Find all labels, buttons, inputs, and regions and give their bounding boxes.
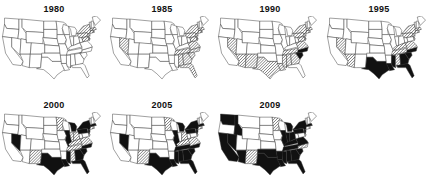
state-wa <box>5 114 19 125</box>
state-co <box>138 43 152 54</box>
state-ms <box>174 151 178 163</box>
state-ms <box>66 55 70 67</box>
state-ri <box>309 30 310 32</box>
state-wy <box>242 31 260 43</box>
state-fl <box>397 63 415 77</box>
state-nm <box>137 150 149 163</box>
state-mt <box>130 115 152 128</box>
state-fl <box>180 159 198 173</box>
us-map <box>0 112 104 176</box>
state-co <box>355 43 369 54</box>
state-mt <box>238 115 260 128</box>
state-mt <box>130 19 152 32</box>
us-map <box>0 16 104 80</box>
state-ct <box>198 126 201 129</box>
state-nd <box>44 21 57 29</box>
panel-year-title: 1980 <box>0 4 108 14</box>
panel-year-title: 1990 <box>216 4 324 14</box>
state-ne <box>259 38 276 46</box>
state-mi <box>69 26 77 35</box>
map-panel-1995: 1995 <box>325 4 433 84</box>
state-wa <box>221 18 235 29</box>
state-ms <box>174 55 178 67</box>
state-ri <box>93 30 94 32</box>
state-mt <box>22 19 44 32</box>
state-mt <box>238 19 260 32</box>
state-wi <box>62 24 69 34</box>
state-md <box>298 133 305 138</box>
state-mi <box>177 26 185 35</box>
state-ct <box>90 126 93 129</box>
state-nd <box>369 21 382 29</box>
state-sd <box>152 125 165 134</box>
us-map <box>325 16 429 80</box>
panel-year-title: 2009 <box>216 100 324 110</box>
state-sd <box>260 125 273 134</box>
state-mi <box>69 122 77 131</box>
state-wa <box>330 18 344 29</box>
map-panel-1990: 1990 <box>216 4 324 84</box>
state-nm <box>245 54 257 67</box>
map-panel-2000: 2000 <box>0 100 108 178</box>
panel-year-title: 2005 <box>108 100 216 110</box>
state-sd <box>152 29 165 38</box>
state-mt <box>347 19 369 32</box>
state-ne <box>151 38 168 46</box>
state-de <box>305 134 306 137</box>
state-fl <box>288 159 306 173</box>
state-ne <box>259 134 276 142</box>
state-ms <box>66 151 70 163</box>
state-wa <box>113 114 127 125</box>
state-ny <box>293 24 307 34</box>
state-mi <box>285 122 293 131</box>
state-mi <box>394 26 402 35</box>
state-wi <box>387 24 394 34</box>
state-ks <box>45 141 60 149</box>
state-wi <box>170 24 177 34</box>
state-ks <box>45 45 60 53</box>
state-mi <box>177 122 185 131</box>
state-nm <box>29 54 41 67</box>
state-ny <box>185 120 199 130</box>
state-de <box>414 38 415 41</box>
state-nd <box>260 21 273 29</box>
state-sd <box>260 29 273 38</box>
us-map <box>108 112 212 176</box>
state-ne <box>368 38 385 46</box>
state-ny <box>185 24 199 34</box>
panel-year-title: 1995 <box>325 4 433 14</box>
state-wa <box>5 18 19 29</box>
state-nd <box>152 117 165 125</box>
state-wi <box>278 24 285 34</box>
state-ri <box>201 126 202 128</box>
state-mt <box>22 115 44 128</box>
state-fl <box>288 63 306 77</box>
state-ct <box>306 30 309 33</box>
state-ny <box>77 24 91 34</box>
state-md <box>190 133 197 138</box>
state-ne <box>151 134 168 142</box>
state-nm <box>29 150 41 163</box>
state-wy <box>242 127 260 139</box>
state-ks <box>370 45 385 53</box>
state-nm <box>354 54 366 67</box>
state-co <box>30 139 44 150</box>
map-panel-1985: 1985 <box>108 4 216 84</box>
state-ne <box>43 38 60 46</box>
state-wi <box>278 120 285 130</box>
state-ms <box>391 55 395 67</box>
state-co <box>30 43 44 54</box>
state-fl <box>72 159 90 173</box>
panel-year-title: 2000 <box>0 100 108 110</box>
state-ks <box>261 141 276 149</box>
state-ne <box>43 134 60 142</box>
state-wy <box>351 31 369 43</box>
state-co <box>138 139 152 150</box>
state-fl <box>180 63 198 77</box>
state-nd <box>152 21 165 29</box>
state-ri <box>309 126 310 128</box>
state-sd <box>369 29 382 38</box>
state-de <box>305 38 306 41</box>
state-md <box>190 37 197 42</box>
state-fl <box>72 63 90 77</box>
